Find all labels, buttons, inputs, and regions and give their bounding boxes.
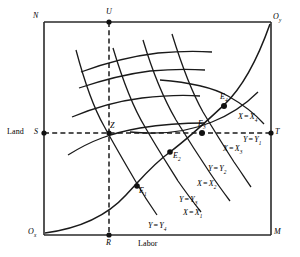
point-label-E2: E2 <box>173 152 181 162</box>
edge-label-U: U <box>106 8 112 16</box>
upper-isoquant-arcs <box>130 80 264 133</box>
isoquant-x3-seg <box>79 69 205 88</box>
edge-label-T: T <box>275 128 280 136</box>
curve-label-y1-var: Y <box>243 135 248 144</box>
edge-label-R: R <box>106 239 111 247</box>
corner-label-Ox: Ox <box>28 228 36 238</box>
curve-label-y2: Y=Y2 <box>208 165 227 175</box>
dot-R <box>106 232 111 237</box>
y-axis-label-land: Land <box>7 128 24 136</box>
curve-label-x3-eq: = <box>228 144 235 153</box>
point-label-E1-sub: 1 <box>144 191 147 197</box>
curve-label-y4-sub: 4 <box>164 226 167 232</box>
dot-Z <box>106 130 111 135</box>
curve-label-x2-eq: = <box>202 179 209 188</box>
curve-label-x4: X=X4 <box>238 113 257 123</box>
curve-label-y4: Y=Y4 <box>148 222 167 232</box>
point-label-E1: E1 <box>139 187 147 197</box>
curve-label-y1-sub: 1 <box>259 140 262 146</box>
point-label-E4-sub: 4 <box>225 97 228 103</box>
edge-label-S: S <box>34 128 38 136</box>
curve-label-x3: X=X3 <box>223 145 242 155</box>
point-label-E4: E4 <box>220 93 228 103</box>
curve-label-x1: X=X1 <box>183 209 202 219</box>
curve-label-x1-sub: 1 <box>200 213 203 219</box>
dot-T <box>268 130 273 135</box>
curve-label-x2-sub: 2 <box>214 184 217 190</box>
point-label-E3-sub: 3 <box>203 124 206 130</box>
corner-label-Ox-sub: x <box>34 232 36 238</box>
curve-label-y2-var: Y <box>208 164 213 173</box>
curve-label-y1: Y=Y1 <box>243 136 262 146</box>
curve-label-x2: X=X2 <box>197 180 216 190</box>
curve-label-y3-sub: 3 <box>195 200 198 206</box>
corner-label-N: N <box>33 12 38 20</box>
curve-label-x4-eq: = <box>243 112 250 121</box>
curve-label-x3-sub: 3 <box>240 149 243 155</box>
dot-E3 <box>199 130 205 136</box>
point-label-Z: Z <box>110 122 115 130</box>
dot-E4 <box>221 103 227 109</box>
corner-label-Oy: Oy <box>273 13 281 23</box>
diagram-canvas <box>0 0 300 257</box>
dot-U <box>106 19 111 24</box>
edgeworth-box-figure: N Oy Ox M U S T R Land Labor Z E1 E2 E3 … <box>0 0 300 257</box>
corner-label-Oy-sub: y <box>279 17 281 23</box>
isoquant-x1 <box>68 123 205 155</box>
box-frame <box>44 22 271 235</box>
x-isoquants <box>68 51 212 155</box>
corner-label-M: M <box>274 228 281 236</box>
x-axis-label-labor: Labor <box>138 240 158 248</box>
point-label-E2-sub: 2 <box>178 156 181 162</box>
curve-label-x1-eq: = <box>188 208 195 217</box>
curve-label-y3: Y=Y3 <box>179 196 198 206</box>
curve-label-x4-sub: 4 <box>255 117 258 123</box>
point-label-E3: E3 <box>198 120 206 130</box>
contract-curve <box>45 24 270 233</box>
curve-label-y2-sub: 2 <box>224 169 227 175</box>
dot-E2 <box>167 149 173 155</box>
curve-label-y4-var: Y <box>148 221 153 230</box>
curve-label-y3-var: Y <box>179 195 184 204</box>
reference-lines <box>44 22 271 235</box>
dot-S <box>41 130 46 135</box>
